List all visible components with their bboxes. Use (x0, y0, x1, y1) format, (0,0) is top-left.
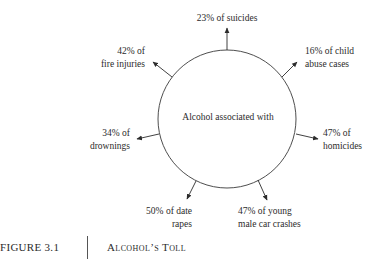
label-drownings-line2: drownings (70, 140, 130, 153)
label-child-abuse: 16% of child abuse cases (305, 45, 354, 70)
arrow-homicides (296, 134, 318, 139)
label-date-rapes: 50% of date rapes (120, 205, 192, 230)
label-car-crashes-line1: 47% of young (238, 205, 301, 218)
label-drownings-line1: 34% of (70, 127, 130, 140)
label-car-crashes-line2: male car crashes (238, 218, 301, 231)
label-homicides-line1: 47% of (323, 127, 362, 140)
label-homicides: 47% of homicides (323, 127, 362, 152)
label-homicides-line2: homicides (323, 140, 362, 153)
arrow-drownings (137, 134, 159, 139)
label-fire-injuries-line2: fire injuries (80, 58, 145, 71)
arrow-child-abuse (282, 62, 297, 77)
label-fire-injuries-line1: 42% of (80, 45, 145, 58)
hub-center-label: Alcohol associated with (158, 112, 298, 122)
label-suicides-line1: 23% of suicides (187, 12, 267, 25)
caption-divider (87, 236, 88, 259)
arrow-date-rapes (187, 181, 196, 199)
label-date-rapes-line2: rapes (120, 218, 192, 231)
arrow-fire-injuries (153, 62, 172, 77)
label-child-abuse-line1: 16% of child (305, 45, 354, 58)
label-date-rapes-line1: 50% of date (120, 205, 192, 218)
label-child-abuse-line2: abuse cases (305, 58, 354, 71)
figure-title: Alcohol’s Toll (107, 241, 186, 253)
label-car-crashes: 47% of young male car crashes (238, 205, 301, 230)
figure-number: FIGURE 3.1 (0, 241, 59, 253)
label-fire-injuries: 42% of fire injuries (80, 45, 145, 70)
figure-caption: FIGURE 3.1 Alcohol’s Toll (0, 239, 390, 259)
label-suicides: 23% of suicides (187, 12, 267, 25)
label-drownings: 34% of drownings (70, 127, 130, 152)
arrow-car-crashes (258, 180, 267, 200)
